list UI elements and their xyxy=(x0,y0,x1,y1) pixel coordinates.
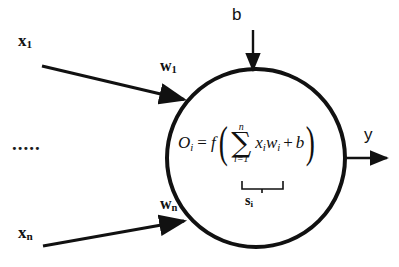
input-label-xn-base: x xyxy=(18,223,27,242)
neuron-diagram-canvas: x1 xn w1 wn b y ..... si Oi = f ( n ∑ i=… xyxy=(0,0,399,267)
formula-sum-symbol: ∑ xyxy=(231,131,251,155)
weight-label-w1-subscript: 1 xyxy=(172,64,177,75)
formula-equals: = xyxy=(193,133,211,153)
weight-label-wn-base: w xyxy=(160,195,172,212)
brace-label-si: si xyxy=(245,194,253,209)
weight-label-wn: wn xyxy=(160,196,177,214)
formula-sum-lower: i=1 xyxy=(234,154,249,164)
input-label-xn-subscript: n xyxy=(27,230,33,242)
weight-label-wn-subscript: n xyxy=(172,202,178,213)
formula-output-symbol: Oi xyxy=(178,133,193,153)
input-label-xn: xn xyxy=(18,224,33,243)
input-label-x1-subscript: 1 xyxy=(27,38,33,50)
brace-label-si-subscript: i xyxy=(250,199,253,209)
input-arrow-xn xyxy=(43,221,184,246)
formula-plus: + xyxy=(280,133,296,153)
formula-bias-symbol: b xyxy=(296,133,305,153)
formula-term-w-i: wi xyxy=(266,133,280,153)
formula-term-x-i: xi xyxy=(253,133,266,153)
inputs-ellipsis: ..... xyxy=(12,134,41,153)
output-label: y xyxy=(364,126,373,143)
weight-label-w1: w1 xyxy=(160,58,177,76)
input-label-x1: x1 xyxy=(18,32,32,51)
bias-label: b xyxy=(232,6,241,23)
input-label-x1-base: x xyxy=(18,31,27,50)
formula-function-symbol: f xyxy=(211,133,217,153)
formula-summation: n ∑ i=1 xyxy=(231,122,251,164)
neuron-formula: Oi = f ( n ∑ i=1 xi wi + b ) xyxy=(178,122,317,164)
weight-label-w1-base: w xyxy=(160,57,172,74)
formula-left-paren: ( xyxy=(218,126,227,160)
formula-right-paren: ) xyxy=(306,126,315,160)
